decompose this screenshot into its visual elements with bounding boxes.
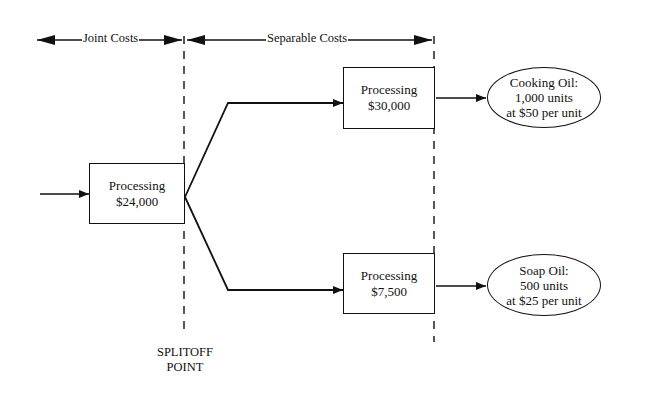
- cooking-oil-price: at $50 per unit: [506, 105, 581, 120]
- splitoff-point-label: SPLITOFF POINT: [150, 345, 220, 375]
- joint-costs-label: Joint Costs: [82, 31, 139, 46]
- joint-processing-label: Processing: [109, 178, 165, 194]
- cooking-oil-processing-cost: $30,000: [368, 98, 410, 114]
- joint-processing-cost: $24,000: [116, 194, 158, 210]
- branch-upper: [185, 103, 343, 197]
- cooking-oil-processing-label: Processing: [361, 82, 417, 98]
- soap-oil-processing-box: Processing $7,500: [343, 253, 435, 314]
- cooking-oil-processing-box: Processing $30,000: [343, 67, 435, 129]
- soap-oil-product: Soap Oil: 500 units at $25 per unit: [487, 254, 601, 316]
- joint-processing-box: Processing $24,000: [89, 163, 185, 224]
- cooking-oil-name: Cooking Oil:: [510, 75, 578, 90]
- soap-oil-processing-cost: $7,500: [371, 284, 407, 300]
- cooking-oil-quantity: 1,000 units: [515, 90, 573, 105]
- soap-oil-price: at $25 per unit: [506, 293, 581, 308]
- branch-lower: [185, 197, 343, 290]
- soap-oil-quantity: 500 units: [520, 278, 568, 293]
- soap-oil-processing-label: Processing: [361, 268, 417, 284]
- cooking-oil-product: Cooking Oil: 1,000 units at $50 per unit: [487, 67, 601, 128]
- separable-costs-label: Separable Costs: [266, 31, 348, 46]
- splitoff-line1: SPLITOFF: [150, 345, 220, 360]
- soap-oil-name: Soap Oil:: [519, 263, 568, 278]
- splitoff-line2: POINT: [150, 360, 220, 375]
